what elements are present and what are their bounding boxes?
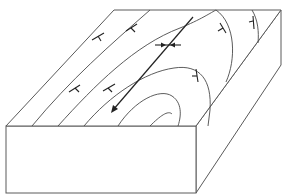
block-diagram [0, 0, 288, 195]
block-front-face [6, 126, 196, 193]
